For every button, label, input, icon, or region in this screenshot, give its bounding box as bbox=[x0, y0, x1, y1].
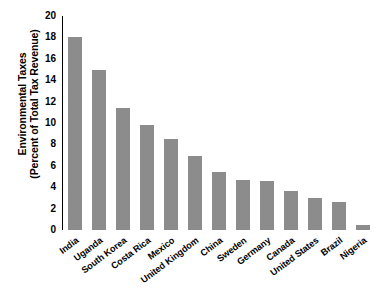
bar[interactable] bbox=[140, 125, 153, 230]
y-axis-tick: 0 bbox=[34, 225, 56, 235]
bar[interactable] bbox=[260, 181, 273, 230]
y-axis-tick: 18 bbox=[34, 32, 56, 42]
bar-slot bbox=[279, 16, 303, 230]
bar-slot bbox=[207, 16, 231, 230]
bar-slot bbox=[303, 16, 327, 230]
bar-slot bbox=[255, 16, 279, 230]
bar[interactable] bbox=[356, 225, 369, 230]
y-axis-title-line-1: Environmental Taxes bbox=[16, 53, 28, 156]
bar-slot bbox=[159, 16, 183, 230]
bar-chart: Environmental Taxes (Percent of Total Ta… bbox=[0, 0, 381, 304]
bar[interactable] bbox=[212, 172, 225, 230]
bar-slot bbox=[63, 16, 87, 230]
bar[interactable] bbox=[284, 191, 297, 230]
plot-area bbox=[63, 16, 375, 230]
bar[interactable] bbox=[188, 156, 201, 230]
y-axis-tick: 16 bbox=[34, 54, 56, 64]
y-axis-tick: 10 bbox=[34, 118, 56, 128]
x-axis-tick-labels: IndiaUgandaSouth KoreaCosta RicaMexicoUn… bbox=[63, 236, 375, 304]
y-axis-tick: 4 bbox=[34, 182, 56, 192]
y-axis-tick: 14 bbox=[34, 75, 56, 85]
bar-slot bbox=[111, 16, 135, 230]
bar[interactable] bbox=[164, 139, 177, 230]
bar-slot bbox=[231, 16, 255, 230]
bar[interactable] bbox=[116, 108, 129, 230]
y-axis-tick: 20 bbox=[34, 11, 56, 21]
y-axis-tick: 2 bbox=[34, 204, 56, 214]
bar[interactable] bbox=[92, 70, 105, 231]
bar-series bbox=[63, 16, 375, 230]
y-axis-tick-labels: 02468101214161820 bbox=[34, 10, 56, 236]
bar-slot bbox=[183, 16, 207, 230]
y-axis-tick: 6 bbox=[34, 161, 56, 171]
bar[interactable] bbox=[236, 180, 249, 230]
bar-slot bbox=[327, 16, 351, 230]
bar[interactable] bbox=[68, 37, 81, 230]
bar[interactable] bbox=[308, 198, 321, 230]
plot-wrapper: 02468101214161820 bbox=[34, 10, 377, 236]
bar-slot bbox=[351, 16, 375, 230]
bar[interactable] bbox=[332, 202, 345, 230]
bar-slot bbox=[135, 16, 159, 230]
y-axis-tick: 8 bbox=[34, 139, 56, 149]
bar-slot bbox=[87, 16, 111, 230]
y-axis-tick: 12 bbox=[34, 97, 56, 107]
